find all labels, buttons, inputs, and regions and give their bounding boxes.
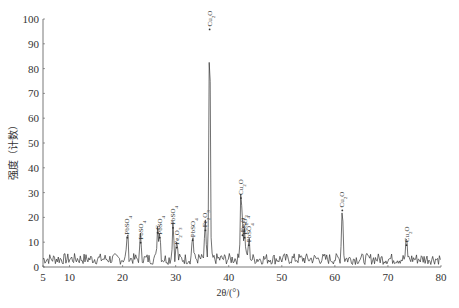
- y-tick-label: 60: [28, 112, 40, 124]
- y-axis-title: 强度（计数）: [7, 120, 19, 180]
- x-tick-label: 20: [117, 271, 129, 283]
- x-tick-label: 30: [170, 271, 182, 283]
- x-tick-label: 60: [329, 271, 341, 283]
- x-tick-label: 70: [382, 271, 394, 283]
- y-tick-label: 30: [28, 187, 40, 199]
- peak-label: Cu2O: [338, 192, 348, 208]
- peak-label: Cu2O: [206, 11, 216, 27]
- peak-label: PbSO4: [169, 205, 179, 224]
- peak-annotations: PbSO4PbSO4CPbSO4PbSO4Fe2O3PbSO4Fe2O3Cu2O…: [123, 11, 412, 249]
- y-tick-label: 20: [28, 211, 40, 223]
- y-tick-label: 80: [28, 63, 40, 75]
- peak-label: Cu2O: [237, 179, 247, 195]
- peak-label: Fe2O3: [201, 210, 211, 228]
- x-tick-label: 80: [436, 271, 448, 283]
- peak-label: Cu2O: [403, 226, 413, 242]
- y-tick-label: 0: [34, 261, 40, 273]
- x-tick-label: 50: [276, 271, 288, 283]
- y-tick-label: 70: [28, 87, 40, 99]
- peak-label: PbSO4: [123, 215, 133, 234]
- axes: 510203040506070800102030405060708090100: [23, 13, 448, 283]
- x-tick-label: 5: [40, 271, 46, 283]
- y-tick-label: 50: [28, 137, 40, 149]
- peak-label: PbSO4: [137, 220, 147, 239]
- y-tick-label: 90: [28, 38, 40, 50]
- peak-label: Fe2O3: [173, 227, 183, 245]
- peak-label: PbSO4: [189, 218, 199, 237]
- y-tick-label: 10: [28, 236, 40, 248]
- xrd-chart: 510203040506070800102030405060708090100 …: [0, 0, 459, 308]
- peak-label: PbSO4: [156, 215, 166, 234]
- x-tick-label: 40: [223, 271, 235, 283]
- y-tick-label: 100: [23, 13, 40, 25]
- y-tick-label: 40: [28, 162, 40, 174]
- x-tick-label: 10: [64, 271, 76, 283]
- x-axis-title: 2θ/(°): [216, 287, 239, 299]
